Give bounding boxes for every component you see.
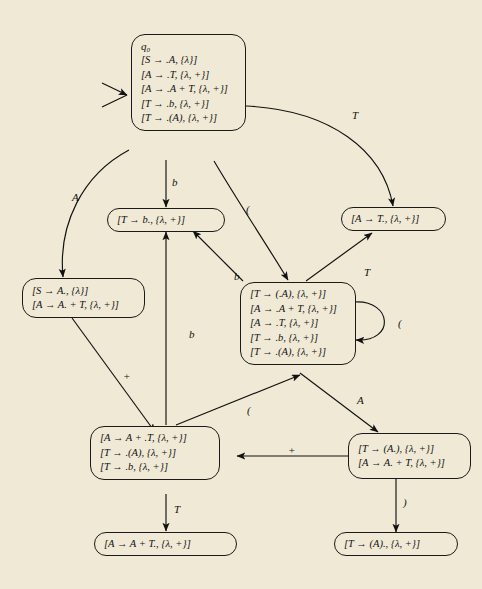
edge-path-q0-to-sparen xyxy=(214,161,288,280)
edge-path-sparen-self xyxy=(355,302,384,340)
edge-path-sAdot-to-splus xyxy=(72,318,155,432)
state-a-a-plus-dot-t-item-1: [T → .(A), {λ, +}] xyxy=(100,446,210,461)
state-t-paren-a-dot[interactable]: [T → (A.), {λ, +}] [A → A. + T, {λ, +}] xyxy=(348,433,471,479)
edge-path-splus-to-sparen xyxy=(176,375,300,425)
start-arrow-tail xyxy=(102,95,127,107)
state-a-a-plus-t-dot[interactable]: [A → A + T., {λ, +}] xyxy=(94,532,237,556)
state-t-paren-a-close-dot[interactable]: [T → (A)., {λ, +}] xyxy=(334,532,458,556)
state-q0-label: q₀ xyxy=(141,39,236,53)
edge-path-q0-to-sTdot xyxy=(246,106,393,206)
state-t-open-paren-item-3: [T → .b, {λ, +}] xyxy=(250,331,346,346)
edge-label-sAparenDot-to-splus: + xyxy=(288,444,295,456)
edge-path-sparen-to-sTdot xyxy=(306,233,372,281)
state-t-open-paren-item-1: [A → .A + T, {λ, +}] xyxy=(250,302,346,317)
state-s-a-dot-item-0: [S → A., {λ}] xyxy=(32,284,135,299)
automaton-diagram: q₀ [S → .A, {λ}] [A → .T, {λ, +}] [A → .… xyxy=(0,0,482,589)
state-t-b-dot[interactable]: [T → b., {λ, +}] xyxy=(107,208,225,232)
edge-label-q0-to-sparen: ( xyxy=(246,203,250,215)
state-q0-item-4: [T → .(A), {λ, +}] xyxy=(141,111,236,126)
state-t-open-paren-item-0: [T → (.A), {λ, +}] xyxy=(250,287,346,302)
state-s-a-dot[interactable]: [S → A., {λ}] [A → A. + T, {λ, +}] xyxy=(22,278,145,318)
start-arrow xyxy=(102,83,127,95)
edge-label-sAdot-to-splus: + xyxy=(123,370,130,382)
edge-label-sparen-to-sAparenDot: A xyxy=(357,394,364,406)
edge-label-splus-to-sparen: ( xyxy=(247,404,251,416)
state-t-paren-a-dot-item-1: [A → A. + T, {λ, +}] xyxy=(358,456,461,471)
state-t-open-paren-item-4: [T → .(A), {λ, +}] xyxy=(250,345,346,360)
state-q0-item-0: [S → .A, {λ}] xyxy=(141,53,236,68)
state-s-a-dot-item-1: [A → A. + T, {λ, +}] xyxy=(32,298,135,313)
state-t-open-paren[interactable]: [T → (.A), {λ, +}] [A → .A + T, {λ, +}] … xyxy=(240,282,356,365)
state-a-t-dot[interactable]: [A → T., {λ, +}] xyxy=(341,207,446,231)
edge-label-splus-to-sb: b xyxy=(189,328,195,340)
state-q0-item-1: [A → .T, {λ, +}] xyxy=(141,68,236,83)
edge-label-splus-to-sAPlusTdot: T xyxy=(174,503,180,515)
edge-label-sparen-to-sTdot: T xyxy=(364,266,370,278)
edge-path-sparen-to-sAparenDot xyxy=(300,373,378,432)
state-t-b-dot-item-0: [T → b., {λ, +}] xyxy=(117,213,215,228)
state-t-paren-a-dot-item-0: [T → (A.), {λ, +}] xyxy=(358,442,461,457)
state-q0[interactable]: q₀ [S → .A, {λ}] [A → .T, {λ, +}] [A → .… xyxy=(131,34,246,131)
edge-label-q0-to-sAdot: A xyxy=(72,191,79,203)
state-a-a-plus-t-dot-item-0: [A → A + T., {λ, +}] xyxy=(104,537,227,552)
edge-label-q0-to-sb: b xyxy=(172,176,178,188)
state-t-open-paren-item-2: [A → .T, {λ, +}] xyxy=(250,316,346,331)
edge-label-sparen-to-sb: b xyxy=(234,270,240,282)
edge-label-sparen-self: ( xyxy=(398,317,402,329)
state-a-a-plus-dot-t-item-0: [A → A + .T, {λ, +}] xyxy=(100,431,210,446)
state-a-t-dot-item-0: [A → T., {λ, +}] xyxy=(351,212,436,227)
state-q0-item-2: [A → .A + T, {λ, +}] xyxy=(141,82,236,97)
state-q0-item-3: [T → .b, {λ, +}] xyxy=(141,97,236,112)
edge-label-q0-to-sTdot: T xyxy=(352,109,358,121)
state-t-paren-a-close-dot-item-0: [T → (A)., {λ, +}] xyxy=(344,537,448,552)
edge-label-sAparenDot-to-sparenAdot: ) xyxy=(403,496,407,508)
state-a-a-plus-dot-t-item-2: [T → .b, {λ, +}] xyxy=(100,460,210,475)
state-a-a-plus-dot-t[interactable]: [A → A + .T, {λ, +}] [T → .(A), {λ, +}] … xyxy=(90,426,220,480)
